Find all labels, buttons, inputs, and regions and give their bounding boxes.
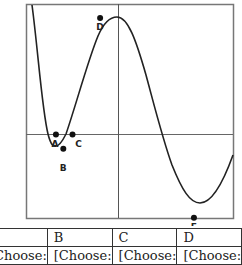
function-graph: ABCDE [0, 0, 242, 226]
point-label-e: E [191, 222, 197, 226]
choose-dropdown-b[interactable]: [Choose: [47, 247, 112, 265]
point-label-b: B [60, 163, 67, 173]
answer-table: A B C D [Choose: [Choose: [Choose: [Choo… [0, 228, 242, 265]
point-label-c: C [75, 139, 82, 149]
point-b [60, 146, 66, 152]
header-cell-b: B [47, 229, 112, 247]
header-cell-d: D [177, 229, 242, 247]
point-e [191, 215, 197, 221]
table-header-row: A B C D [0, 229, 242, 247]
graph-frame [27, 5, 234, 219]
point-c [70, 132, 76, 138]
choose-dropdown-d[interactable]: [Choose: [177, 247, 242, 265]
point-d [97, 15, 103, 21]
header-cell-c: C [112, 229, 177, 247]
point-label-a: A [51, 139, 58, 149]
point-label-d: D [96, 22, 103, 32]
point-a [53, 132, 59, 138]
choose-dropdown-a[interactable]: [Choose: [0, 247, 47, 265]
choose-dropdown-c[interactable]: [Choose: [112, 247, 177, 265]
table-row: [Choose: [Choose: [Choose: [Choose: [0, 247, 242, 265]
header-cell-a: A [0, 229, 47, 247]
